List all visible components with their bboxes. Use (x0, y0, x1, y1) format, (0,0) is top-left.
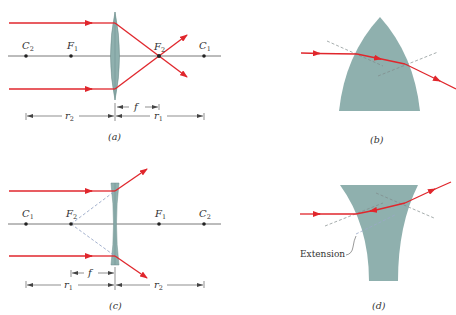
label-r-left: r2 (65, 110, 74, 123)
point-c1 (24, 222, 28, 226)
concave-lens-section (340, 185, 418, 281)
panel-a: C2 F1 F2 C1 f r2 r1 (a) (8, 12, 221, 142)
label-r-left: r1 (64, 279, 73, 292)
dimension-lines (26, 267, 204, 290)
extension-label: Extension (300, 249, 345, 259)
point-f2 (157, 54, 161, 58)
label-f: f (133, 101, 140, 112)
point-f1 (157, 222, 161, 226)
panel-d: Extension (d) (300, 182, 451, 311)
label-f1: F1 (66, 40, 78, 53)
label-f2: F2 (65, 208, 77, 221)
label-c2: C2 (22, 40, 34, 53)
virtual-rays (71, 191, 115, 256)
lens-diagram-figure: C2 F1 F2 C1 f r2 r1 (a) (0, 0, 456, 315)
label-f: f (87, 267, 94, 278)
point-c1 (202, 54, 206, 58)
point-f2 (69, 222, 73, 226)
label-r-right: r1 (154, 110, 163, 123)
label-c1: C1 (22, 208, 34, 221)
label-r-right: r2 (154, 279, 163, 292)
panel-b: (b) (301, 17, 456, 145)
panel-c: C1 F2 F1 C2 f r1 r2 (c) (8, 169, 221, 311)
point-c2 (202, 222, 206, 226)
point-f1 (69, 54, 73, 58)
caption-b: (b) (370, 134, 384, 145)
dimension-lines (26, 103, 204, 121)
label-f1: F1 (154, 208, 166, 221)
caption-c: (c) (109, 300, 122, 311)
label-c1: C1 (199, 40, 211, 53)
diverging-rays (115, 169, 147, 278)
extension-leader (346, 236, 356, 255)
caption-a: (a) (108, 131, 121, 142)
label-c2: C2 (199, 208, 211, 221)
caption-d: (d) (372, 300, 386, 311)
point-c2 (24, 54, 28, 58)
